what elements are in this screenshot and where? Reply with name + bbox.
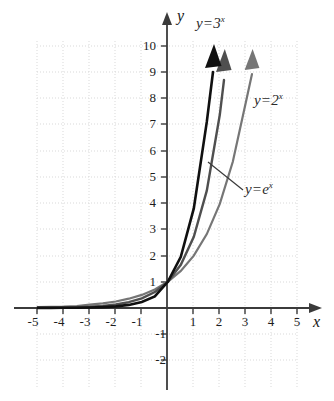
label-ex-op: = [252, 181, 262, 197]
x-tick-neg5: -5 [23, 315, 43, 328]
label-3x-op: = [203, 15, 213, 31]
y-axis-label: y [177, 8, 184, 24]
label-3x-exponent: x [221, 14, 225, 24]
label-ex-lhs: y [245, 181, 252, 197]
y-tick-5: 5 [130, 170, 156, 183]
curve-label-3-to-the-x: y=3x [196, 16, 225, 31]
curve-label-e-to-the-x: y=ex [245, 182, 273, 197]
x-tick-1: 1 [183, 315, 203, 328]
y-tick-9: 9 [130, 65, 156, 78]
y-tick-4: 4 [130, 196, 156, 209]
label-ex-base: e [262, 181, 269, 197]
label-2x-lhs: y [254, 92, 261, 108]
y-tick-1: 1 [130, 275, 156, 288]
y-tick-3: 3 [130, 222, 156, 235]
label-2x-base: 2 [271, 92, 279, 108]
x-axis-label: x [313, 314, 320, 330]
x-tick-5: 5 [287, 315, 307, 328]
exponential-functions-graph: y x 10 9 8 7 6 5 4 3 2 1 -1 -2 -5 -4 -3 … [0, 0, 334, 401]
x-tick-4: 4 [261, 315, 281, 328]
plot-canvas [0, 0, 334, 401]
x-tick-2: 2 [209, 315, 229, 328]
label-3x-lhs: y [196, 15, 203, 31]
label-ex-exponent: x [269, 180, 273, 190]
x-tick-neg4: -4 [49, 315, 69, 328]
label-3x-base: 3 [213, 15, 221, 31]
y-tick-neg1: -1 [140, 327, 166, 340]
label-2x-op: = [261, 92, 271, 108]
x-tick-3: 3 [235, 315, 255, 328]
y-tick-2: 2 [130, 249, 156, 262]
x-tick-neg3: -3 [75, 315, 95, 328]
y-tick-7: 7 [130, 117, 156, 130]
y-tick-10: 10 [130, 39, 156, 52]
curve-label-2-to-the-x: y=2x [254, 93, 283, 108]
x-tick-neg1: -1 [127, 315, 147, 328]
x-tick-neg2: -2 [101, 315, 121, 328]
y-tick-neg2: -2 [140, 353, 166, 366]
label-2x-exponent: x [279, 91, 283, 101]
y-tick-8: 8 [130, 91, 156, 104]
y-tick-6: 6 [130, 144, 156, 157]
